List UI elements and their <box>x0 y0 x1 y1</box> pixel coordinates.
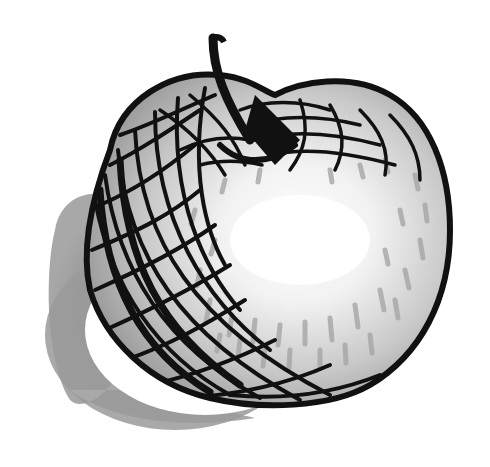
apple-illustration <box>0 0 490 467</box>
apple-drawing <box>0 0 490 467</box>
